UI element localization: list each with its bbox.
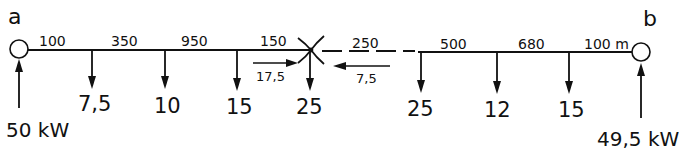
load-arrow-icon (233, 50, 241, 91)
segment-length: 250 (352, 36, 379, 50)
node-a-circle (10, 40, 28, 58)
segment-length: 500 (440, 37, 467, 51)
load-value: 12 (484, 100, 511, 121)
flow-arrow-left-icon (333, 62, 390, 70)
feed-a-value: 50 kW (6, 120, 69, 140)
feed-b-value: 49,5 kW (597, 129, 679, 149)
load-value: 15 (226, 97, 253, 118)
load-arrow-icon (493, 52, 501, 94)
segment-length: 100 m (584, 37, 629, 51)
load-value: 7,5 (78, 94, 111, 115)
node-b-circle (632, 43, 650, 61)
load-value: 15 (558, 100, 585, 121)
segment-length: 950 (181, 34, 208, 48)
node-a-label: a (8, 6, 21, 28)
segment-length: 100 (39, 34, 66, 48)
load-arrow-icon (88, 50, 96, 89)
flow-value-left: 17,5 (256, 70, 285, 83)
load-arrow-icon (161, 50, 169, 89)
load-value: 10 (154, 96, 181, 117)
flow-arrow-right-icon (253, 59, 298, 67)
load-arrow-icon (417, 52, 425, 93)
load-value: 25 (296, 97, 323, 118)
segment-length: 150 (260, 34, 287, 48)
load-arrow-icon (306, 50, 314, 91)
feed-arrow-a-icon (15, 59, 23, 108)
segment-length: 680 (518, 37, 545, 51)
feed-arrow-b-icon (637, 63, 645, 118)
segment-length: 350 (111, 34, 138, 48)
load-value: 25 (407, 99, 434, 120)
load-arrow-icon (565, 52, 573, 94)
network-diagram (0, 0, 688, 156)
flow-value-right: 7,5 (356, 72, 377, 85)
node-b-label: b (643, 8, 657, 30)
